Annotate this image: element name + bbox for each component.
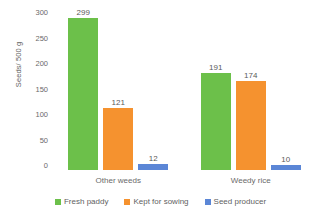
y-tick-label: 0: [26, 162, 48, 170]
y-tick-label: 50: [26, 137, 48, 145]
legend-swatch-icon: [205, 199, 211, 205]
legend-swatch-icon: [55, 199, 61, 205]
bar-slot: 121: [103, 17, 133, 170]
bar[interactable]: [201, 73, 231, 170]
bar-value-label: 12: [149, 154, 158, 163]
legend-label: Kept for sowing: [133, 197, 188, 206]
bar[interactable]: [103, 108, 133, 170]
legend-swatch-icon: [124, 199, 130, 205]
bar[interactable]: [236, 81, 266, 170]
bar-value-label: 191: [209, 63, 222, 72]
y-axis-title: Seeds/ 500 g: [14, 25, 23, 105]
bar-value-label: 299: [77, 8, 90, 17]
legend-item[interactable]: Fresh paddy: [55, 197, 108, 206]
bar-slot: 299: [68, 17, 98, 170]
bar-slot: 12: [138, 17, 168, 170]
x-category-label: Weedy rice: [185, 174, 318, 188]
x-axis-category-labels: Other weedsWeedy rice: [52, 174, 317, 188]
bar-value-label: 10: [281, 155, 290, 164]
legend-item[interactable]: Seed producer: [205, 197, 266, 206]
plot-area: 2991211219117410: [52, 17, 317, 170]
bar[interactable]: [68, 18, 98, 170]
y-tick-label: 200: [26, 60, 48, 68]
legend-label: Fresh paddy: [64, 197, 108, 206]
bar-slot: 174: [236, 17, 266, 170]
y-tick-label: 150: [26, 86, 48, 94]
y-tick-label: 300: [26, 9, 48, 17]
y-tick-label: 250: [26, 35, 48, 43]
bar-slot: 10: [271, 17, 301, 170]
bar-groups: 2991211219117410: [52, 17, 317, 170]
bar-group: 19117410: [185, 17, 318, 170]
bar-chart: Seeds/ 500 g 300250200150100500 29912112…: [0, 0, 321, 221]
x-category-label: Other weeds: [52, 174, 185, 188]
legend-label: Seed producer: [214, 197, 266, 206]
y-tick-label: 100: [26, 111, 48, 119]
bar-slot: 191: [201, 17, 231, 170]
bar-group: 29912112: [52, 17, 185, 170]
chart-legend: Fresh paddyKept for sowingSeed producer: [0, 197, 321, 206]
bar[interactable]: [138, 164, 168, 170]
bar-value-label: 121: [112, 98, 125, 107]
bar[interactable]: [271, 165, 301, 170]
bar-value-label: 174: [244, 71, 257, 80]
legend-item[interactable]: Kept for sowing: [124, 197, 188, 206]
y-axis-tick-labels: 300250200150100500: [26, 13, 48, 173]
